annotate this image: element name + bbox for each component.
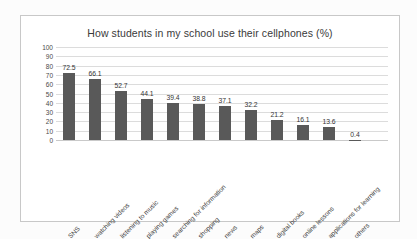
bar-value-label: 39.4 [160, 94, 186, 101]
bar-value-label: 13.6 [316, 118, 342, 125]
chart-container: How students in my school use their cell… [20, 15, 400, 222]
bar-value-label: 44.1 [134, 90, 160, 97]
bar-value-label: 21.2 [264, 111, 290, 118]
bar-value-label: 66.1 [82, 70, 108, 77]
bar-group: 0.4others [342, 47, 368, 140]
y-axis-tick-label: 70 [31, 71, 53, 78]
bar-group: 16.1online lessons [290, 47, 316, 140]
y-axis-tick-label: 90 [31, 53, 53, 60]
bar-value-label: 72.5 [56, 64, 82, 71]
bar-group: 52.7listening to music [108, 47, 134, 140]
bar-group: 66.1watching videos [82, 47, 108, 140]
y-axis-tick-label: 60 [31, 81, 53, 88]
y-axis-tick-label: 50 [31, 90, 53, 97]
screenshot-canvas: How students in my school use their cell… [0, 0, 417, 239]
bar[interactable] [271, 120, 283, 140]
x-axis-category-label: maps [249, 223, 265, 239]
bar[interactable] [141, 99, 153, 140]
bar-value-label: 38.8 [186, 95, 212, 102]
bar-value-label: 37.1 [212, 97, 238, 104]
bar-group: 39.4searching for information [160, 47, 186, 140]
bar[interactable] [245, 110, 257, 140]
y-axis-tick-label: 80 [31, 62, 53, 69]
bar-value-label: 16.1 [290, 116, 316, 123]
x-axis-line [56, 140, 388, 141]
y-axis-tick-label: 10 [31, 127, 53, 134]
bar-group: 37.1news [212, 47, 238, 140]
y-axis-tick-label: 0 [31, 137, 53, 144]
bar[interactable] [297, 125, 309, 140]
y-axis-tick-label: 100 [31, 44, 53, 51]
x-axis-category-label: others [353, 222, 371, 239]
y-axis-tick-label: 40 [31, 99, 53, 106]
bar[interactable] [323, 127, 335, 140]
bar-value-label: 32.2 [238, 101, 264, 108]
bar[interactable] [193, 104, 205, 140]
bar[interactable] [167, 103, 179, 140]
bar-group: 21.2digital books [264, 47, 290, 140]
bar-group: 72.5SNS [56, 47, 82, 140]
bar-group: 32.2maps [238, 47, 264, 140]
bar[interactable] [219, 106, 231, 141]
bar-group: 38.8shopping [186, 47, 212, 140]
x-axis-category-label: applications for learning [327, 185, 381, 239]
bar[interactable] [63, 73, 75, 140]
y-axis-tick-label: 30 [31, 109, 53, 116]
x-axis-category-label: shopping [197, 216, 221, 239]
bar-value-label: 0.4 [342, 131, 368, 138]
chart-title: How students in my school use their cell… [21, 27, 399, 39]
bar-group: 13.6applications for learning [316, 47, 342, 140]
x-axis-category-label: news [223, 224, 239, 239]
bar-group: 44.1playing games [134, 47, 160, 140]
bar[interactable] [115, 91, 127, 140]
y-axis-tick-label: 20 [31, 118, 53, 125]
plot-area: 1009080706050403020100 72.5SNS66.1watchi… [56, 47, 401, 140]
bar[interactable] [89, 79, 101, 140]
bar-value-label: 52.7 [108, 82, 134, 89]
x-axis-category-label: SNS [67, 225, 82, 239]
